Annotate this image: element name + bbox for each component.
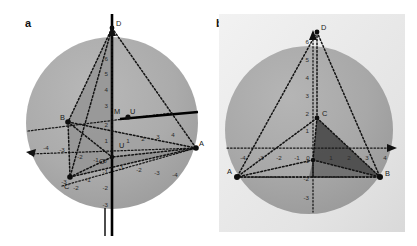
vertex-label-b-A: A xyxy=(227,167,232,176)
tick-a-r-1: 1 xyxy=(126,137,130,144)
tick-a-vp-4: 4 xyxy=(105,86,109,93)
tick-b-vn-2: -2 xyxy=(303,175,309,182)
vertex-label-a-C: C xyxy=(64,182,70,191)
tick-b-hn-3: -3 xyxy=(258,154,264,161)
tick-a-vp-2: 2 xyxy=(105,121,109,128)
vertex-label-b-B: B xyxy=(385,169,390,178)
tick-a-ll-2: -2 xyxy=(73,184,79,191)
tick-a-r-3: 3 xyxy=(156,133,160,140)
vertex-label-a-B: B xyxy=(60,113,65,122)
vertex-label-a-U2: U xyxy=(119,141,124,150)
panel-a: a xyxy=(0,0,209,246)
vertex-label-b-D: D xyxy=(321,23,326,32)
panel-b: b xyxy=(209,0,417,246)
panel-a-graphic: 6 5 4 3 2 1 -1 -2 -3 -4 -3 -2 -1 0 xyxy=(0,0,209,246)
tick-group-vertical-neg-b: -1 -2 -3 xyxy=(303,157,309,201)
vertex-label-b-C: C xyxy=(322,109,328,118)
tick-b-vp-4: 4 xyxy=(306,74,310,81)
tick-b-hn-4: -4 xyxy=(240,154,246,161)
vertex-label-a-O: O xyxy=(99,157,105,166)
tick-a-vp-5: 5 xyxy=(105,70,109,77)
tick-a-lr-3: -3 xyxy=(154,169,160,176)
tick-a-r-2: 2 xyxy=(141,135,145,142)
tick-group-vertical-neg-a: -1 -2 -3 xyxy=(102,168,108,208)
tick-b-hn-2: -2 xyxy=(276,154,282,161)
tick-a-lr-2: -2 xyxy=(136,166,142,173)
tick-b-vn-3: -3 xyxy=(303,194,309,201)
vertex-label-a-M: M xyxy=(114,107,120,116)
tick-a-l-3: -3 xyxy=(59,146,65,153)
tick-a-vn-2: -2 xyxy=(102,184,108,191)
tick-b-vp-5: 5 xyxy=(306,56,310,63)
tick-a-vp-1: 1 xyxy=(105,137,109,144)
vertex-label-a-U: U xyxy=(130,107,135,116)
vertex-label-a-D: D xyxy=(116,19,121,28)
tick-a-vn-3: -3 xyxy=(102,201,108,208)
tick-a-lr-4: -4 xyxy=(172,171,178,178)
tick-b-vp-2: 2 xyxy=(306,110,310,117)
tick-a-r-4: 4 xyxy=(171,131,175,138)
tick-a-vp-3: 3 xyxy=(105,102,109,109)
tick-b-hn-1: -1 xyxy=(294,154,300,161)
tick-a-vn-1: -1 xyxy=(102,168,108,175)
tick-a-l-4: -4 xyxy=(43,144,49,151)
tick-a-vp-6: 6 xyxy=(105,55,109,62)
tick-b-vp-6: 6 xyxy=(306,38,310,45)
figure-root: a xyxy=(0,0,417,246)
tick-b-vp-3: 3 xyxy=(306,92,310,99)
tick-a-lr-1: -1 xyxy=(118,164,124,171)
tick-b-origin: 0 xyxy=(306,154,310,161)
tick-b-hp-1: 1 xyxy=(329,154,333,161)
tick-a-l-2: -2 xyxy=(77,153,83,160)
tick-b-vp-1: 1 xyxy=(306,127,310,134)
sphere-b xyxy=(225,46,393,214)
tick-b-hp-3: 3 xyxy=(365,154,369,161)
tick-b-hp-2: 2 xyxy=(347,154,351,161)
panel-b-graphic: 6 5 4 3 2 1 -1 -2 -3 -4 -3 -2 -1 0 xyxy=(209,0,417,246)
tick-b-hp-4: 4 xyxy=(383,154,387,161)
vertex-label-a-A: A xyxy=(199,139,204,148)
tick-a-ll-1: -1 xyxy=(85,176,91,183)
